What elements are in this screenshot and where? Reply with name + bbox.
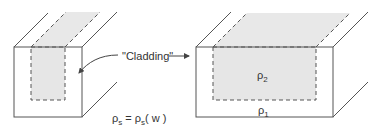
right-core-front [213, 47, 316, 100]
left-waveguide [14, 12, 117, 117]
cladding-label: "Cladding" [122, 50, 173, 62]
equation: ρs = ρs( w ) [112, 112, 166, 127]
left-core-front [31, 47, 65, 100]
left-core-top [31, 12, 100, 47]
right-core-top [213, 13, 350, 47]
arrow-to-left-cladding [79, 55, 118, 73]
right-waveguide [196, 12, 368, 117]
waveguide-diagram: "Cladding" ρ2 ρ1 ρs = ρs( w ) [0, 0, 377, 135]
